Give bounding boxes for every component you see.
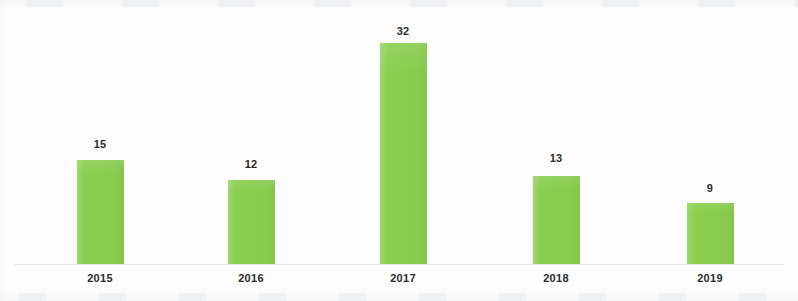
bar-2015 — [77, 160, 124, 264]
category-label-2017: 2017 — [390, 272, 416, 284]
bar-value-label-2016: 12 — [245, 158, 258, 170]
plot-area: 15 2015 12 2016 32 2017 13 2018 9 2019 — [0, 0, 798, 301]
bar-value-label-2017: 32 — [397, 25, 410, 37]
x-axis-line — [14, 264, 784, 265]
bar-value-label-2015: 15 — [94, 138, 107, 150]
bar-2016 — [228, 180, 275, 264]
bar-chart-figure: 15 2015 12 2016 32 2017 13 2018 9 2019 — [0, 0, 798, 301]
category-label-2015: 2015 — [87, 272, 113, 284]
bar-value-label-2019: 9 — [707, 182, 713, 194]
category-label-2019: 2019 — [697, 272, 723, 284]
bar-2017 — [380, 43, 427, 264]
category-label-2018: 2018 — [543, 272, 569, 284]
bar-2018 — [533, 176, 580, 264]
category-label-2016: 2016 — [238, 272, 264, 284]
bar-2019 — [687, 203, 734, 264]
bar-value-label-2018: 13 — [550, 152, 563, 164]
